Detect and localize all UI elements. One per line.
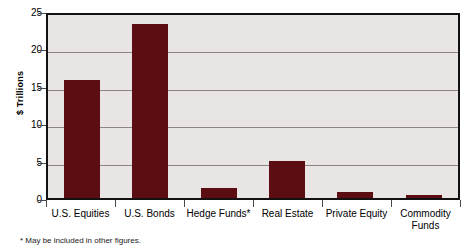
bar-slot — [185, 15, 253, 198]
x-axis-tick-mark — [115, 200, 116, 207]
bar — [132, 24, 168, 198]
y-axis-tick-label: 20 — [2, 45, 42, 55]
x-axis-label: CommodityFunds — [391, 208, 460, 232]
bar — [337, 192, 373, 198]
x-axis-label-line: Commodity — [392, 208, 459, 220]
bar-series — [48, 15, 458, 198]
y-axis-tick-label: 10 — [2, 120, 42, 130]
x-axis-label-line: Funds — [392, 220, 459, 232]
bar — [269, 161, 305, 198]
y-axis-tick-mark — [38, 200, 46, 201]
bar — [64, 80, 100, 198]
plot-area — [46, 13, 460, 200]
x-axis-tick-mark — [184, 200, 185, 207]
y-axis-tick-mark — [38, 88, 46, 89]
x-axis-tick-mark — [391, 200, 392, 207]
x-axis-label-line: Real Estate — [254, 208, 321, 220]
y-axis-tick-label: 5 — [2, 158, 42, 168]
bar — [201, 188, 237, 198]
x-axis-label-line: U.S. Equities — [47, 208, 114, 220]
y-axis-tick-label: 0 — [2, 195, 42, 205]
bar-slot — [390, 15, 458, 198]
x-axis-label-line: U.S. Bonds — [116, 208, 183, 220]
x-axis-labels: U.S. EquitiesU.S. BondsHedge Funds*Real … — [46, 208, 460, 232]
bar — [406, 195, 442, 198]
y-axis-tick-mark — [38, 13, 46, 14]
y-axis-tick-label: 15 — [2, 83, 42, 93]
x-axis-label: Real Estate — [253, 208, 322, 232]
y-axis-tick-mark — [38, 163, 46, 164]
bar-chart-figure: $ Trillions 0510152025 U.S. EquitiesU.S.… — [0, 0, 468, 251]
x-axis-label: U.S. Bonds — [115, 208, 184, 232]
x-axis-label: Hedge Funds* — [184, 208, 253, 232]
x-axis-tick-mark — [460, 200, 461, 207]
x-axis-label-line: Hedge Funds* — [185, 208, 252, 220]
y-axis-tick-label: 25 — [2, 8, 42, 18]
bar-slot — [116, 15, 184, 198]
footnote: * May be included in other figures. — [20, 236, 141, 246]
x-axis-tick-mark — [322, 200, 323, 207]
y-axis-tick-mark — [38, 50, 46, 51]
x-axis-tick-mark — [253, 200, 254, 207]
bar-slot — [48, 15, 116, 198]
x-axis-tick-mark — [46, 200, 47, 207]
x-axis-label: Private Equity — [322, 208, 391, 232]
x-axis-tick-layer — [46, 200, 460, 207]
bar-slot — [321, 15, 389, 198]
x-axis-label-line: Private Equity — [323, 208, 390, 220]
y-axis-tick-mark — [38, 125, 46, 126]
x-axis-label: U.S. Equities — [46, 208, 115, 232]
bar-slot — [253, 15, 321, 198]
